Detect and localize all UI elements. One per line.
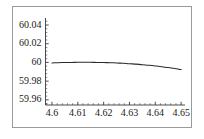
data-series-curve <box>52 62 181 69</box>
x-axis-ticks <box>47 102 181 105</box>
chart-figure: 60.0460.026059.9859.96 4.64.614.624.634.… <box>0 0 204 139</box>
y-tick-label: 60.04 <box>0 20 42 30</box>
x-tick-label: 4.65 <box>164 108 198 118</box>
y-tick-label: 59.96 <box>0 94 42 104</box>
axis-lines <box>46 18 186 105</box>
y-axis-ticks <box>46 21 49 103</box>
y-tick-label: 60.02 <box>0 38 42 48</box>
y-tick-label: 60 <box>0 57 42 67</box>
y-tick-label: 59.98 <box>0 76 42 86</box>
